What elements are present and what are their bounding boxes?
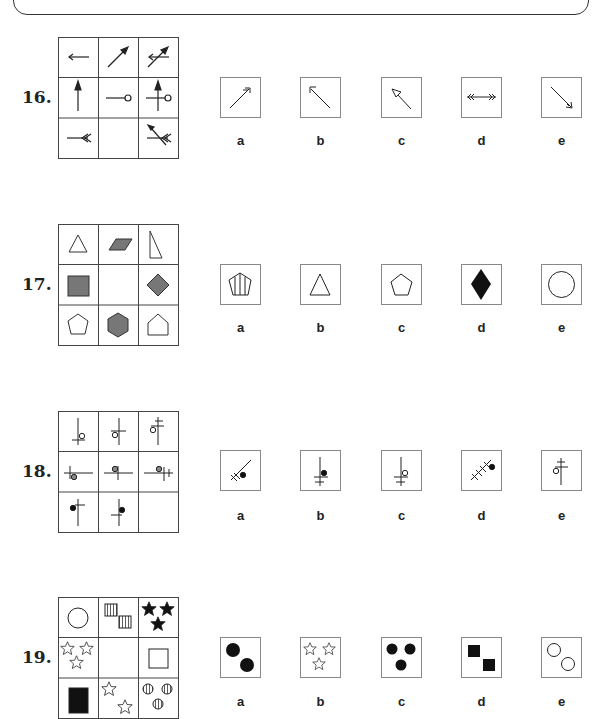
option-label: a xyxy=(220,694,261,709)
option-label: a xyxy=(220,133,261,148)
option-label: b xyxy=(300,320,341,335)
option-label: c xyxy=(381,508,422,523)
option-16-d[interactable] xyxy=(461,77,502,118)
option-label: e xyxy=(541,694,582,709)
option-label: d xyxy=(461,694,502,709)
option-18-a[interactable] xyxy=(220,450,261,491)
matrix-grid-18 xyxy=(58,411,179,533)
option-16-c[interactable] xyxy=(381,77,422,118)
option-label: d xyxy=(461,133,502,148)
question-number: 19. xyxy=(22,647,52,667)
option-label: c xyxy=(381,320,422,335)
matrix-grid-17 xyxy=(58,224,179,346)
option-16-e[interactable] xyxy=(541,77,582,118)
option-label: a xyxy=(220,320,261,335)
option-label: e xyxy=(541,320,582,335)
option-17-c[interactable] xyxy=(381,264,422,305)
option-16-b[interactable] xyxy=(300,77,341,118)
option-label: d xyxy=(461,508,502,523)
option-17-d[interactable] xyxy=(461,264,502,305)
option-19-b[interactable] xyxy=(300,637,341,678)
option-label: e xyxy=(541,133,582,148)
option-label: c xyxy=(381,133,422,148)
option-label: d xyxy=(461,320,502,335)
option-19-d[interactable] xyxy=(461,637,502,678)
option-label: c xyxy=(381,694,422,709)
question-number: 18. xyxy=(22,461,52,481)
option-17-a[interactable] xyxy=(220,264,261,305)
question-number: 17. xyxy=(22,274,52,294)
matrix-grid-16 xyxy=(58,37,179,159)
option-17-e[interactable] xyxy=(541,264,582,305)
option-19-a[interactable] xyxy=(220,637,261,678)
option-label: b xyxy=(300,694,341,709)
option-19-c[interactable] xyxy=(381,637,422,678)
option-label: b xyxy=(300,133,341,148)
option-label: e xyxy=(541,508,582,523)
option-18-e[interactable] xyxy=(541,450,582,491)
option-19-e[interactable] xyxy=(541,637,582,678)
option-label: a xyxy=(220,508,261,523)
option-17-b[interactable] xyxy=(300,264,341,305)
option-18-c[interactable] xyxy=(381,450,422,491)
option-18-d[interactable] xyxy=(461,450,502,491)
option-label: b xyxy=(300,508,341,523)
option-16-a[interactable] xyxy=(220,77,261,118)
header-frame xyxy=(13,0,589,15)
option-18-b[interactable] xyxy=(300,450,341,491)
matrix-grid-19 xyxy=(58,597,179,719)
question-number: 16. xyxy=(22,87,52,107)
